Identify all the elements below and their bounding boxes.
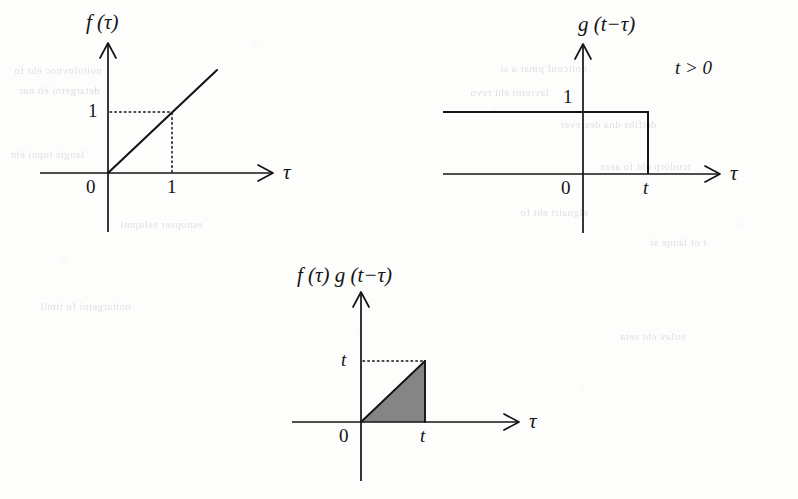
plot-f-tau-ramp-svg <box>0 0 330 260</box>
ghost-mark: eulav eht seta <box>620 330 685 342</box>
step-signal-path <box>443 112 648 174</box>
ghost-mark: noitargetni fo timil <box>40 300 131 312</box>
x-axis-group <box>443 166 720 182</box>
plot-f-tau-ramp: f (τ) 1 0 1 τ <box>0 0 330 260</box>
y-axis-group <box>100 43 116 232</box>
x-axis-group <box>40 165 273 181</box>
y-axis-group <box>353 292 369 481</box>
y-axis-group <box>575 44 591 233</box>
plot-product-svg <box>270 255 590 499</box>
plot-g-step-svg <box>430 0 790 260</box>
plot-g-t-minus-tau-step: g (t−τ) 1 0 t τ t > 0 <box>430 0 790 260</box>
plot-product-triangle: f (τ) g (t−τ) t 0 t τ <box>270 255 590 499</box>
ramp-signal-line <box>108 70 217 173</box>
figure-page: noitulovnoc eht fodetargetni eb naclangi… <box>0 0 798 499</box>
